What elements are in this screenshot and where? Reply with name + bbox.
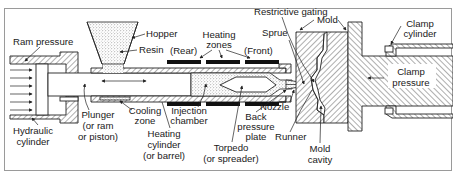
label-clamp-pressure: Clamp bbox=[397, 66, 425, 77]
injection-molding-diagram: Ram pressure Hydraulic cylinder Hopper R… bbox=[0, 0, 453, 183]
label-heating-cylinder-2: cylinder bbox=[147, 139, 181, 150]
plunger bbox=[48, 73, 191, 96]
label-mold: Mold bbox=[317, 14, 338, 25]
label-sprue: Sprue bbox=[262, 27, 288, 38]
label-mold-cavity-2: cavity bbox=[308, 154, 333, 165]
label-front: (Front) bbox=[244, 45, 273, 56]
label-mold-cavity: Mold bbox=[310, 143, 331, 154]
label-hopper: Hopper bbox=[146, 28, 178, 39]
label-torpedo-2: (or spreader) bbox=[203, 153, 258, 164]
label-plunger-2: (or ram bbox=[83, 120, 114, 131]
label-heating-cylinder-3: (or barrel) bbox=[143, 150, 185, 161]
label-plunger: Plunger bbox=[81, 109, 115, 120]
label-injection-chamber-2: chamber bbox=[170, 115, 208, 126]
label-heating-zones-2: zones bbox=[206, 39, 232, 50]
hopper bbox=[87, 22, 138, 64]
label-hydraulic-cylinder-2: cylinder bbox=[16, 136, 50, 147]
label-cooling-zone-2: zone bbox=[135, 115, 156, 126]
label-rear: (Rear) bbox=[170, 45, 197, 56]
label-plunger-3: or piston) bbox=[78, 131, 118, 142]
label-hydraulic-cylinder: Hydraulic bbox=[13, 125, 53, 136]
label-resin: Resin bbox=[139, 44, 164, 55]
label-torpedo: Torpedo bbox=[214, 142, 249, 153]
label-clamp-pressure-2: pressure bbox=[392, 77, 429, 88]
label-nozzle: Nozzle bbox=[260, 101, 289, 112]
label-ram-pressure: Ram pressure bbox=[13, 36, 73, 47]
label-heating-cylinder: Heating bbox=[147, 128, 180, 139]
label-back-pressure-plate-3: plate bbox=[246, 131, 267, 142]
label-clamp-cylinder-2: cylinder bbox=[403, 28, 437, 39]
label-runner: Runner bbox=[275, 131, 307, 142]
